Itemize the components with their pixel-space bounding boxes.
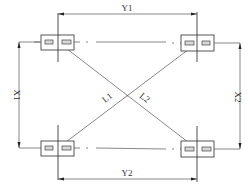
label-x1: X1 <box>12 90 22 101</box>
arrow-down-icon <box>239 143 242 149</box>
arrow-right-icon <box>191 178 197 181</box>
diagonal-l1-line <box>58 43 197 148</box>
label-l1: L1 <box>100 91 114 105</box>
label-y1: Y1 <box>122 3 133 13</box>
node-bottom-right <box>181 141 214 157</box>
label-x2: X2 <box>233 92 243 103</box>
node-bottom-left <box>41 141 74 156</box>
label-l2: L2 <box>138 91 152 105</box>
node-top-right <box>181 35 214 51</box>
arrow-up-icon <box>18 42 21 48</box>
label-y2: Y2 <box>122 168 133 178</box>
measurement-diagram: Y1 Y2 X1 X2 L1 L2 <box>0 0 248 194</box>
arrow-down-icon <box>18 142 21 148</box>
center-point <box>126 95 127 96</box>
arrow-up-icon <box>239 43 242 49</box>
arrow-right-icon <box>191 13 197 16</box>
node-top-left <box>41 35 74 50</box>
arrow-left-icon <box>58 13 64 16</box>
arrow-left-icon <box>58 178 64 181</box>
